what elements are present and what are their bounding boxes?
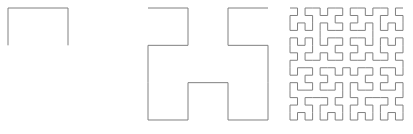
hilbert-panel-order-2 <box>140 0 280 134</box>
hilbert-order-2-svg <box>140 0 280 134</box>
hilbert-order-4-svg <box>280 0 413 134</box>
hilbert-figure <box>0 0 413 134</box>
hilbert-order-4-path <box>290 8 403 120</box>
hilbert-panel-order-1 <box>0 0 140 134</box>
hilbert-order-1-svg <box>0 0 140 134</box>
hilbert-panel-order-4 <box>280 0 413 134</box>
hilbert-order-2-path <box>148 8 268 120</box>
hilbert-order-1-path <box>8 8 68 45</box>
